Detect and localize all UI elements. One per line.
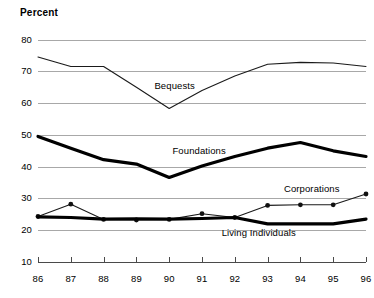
series-line-foundations [38, 136, 366, 177]
data-point-marker [364, 192, 369, 197]
x-tick-89 [136, 257, 137, 262]
series-line-living-individuals [38, 217, 366, 224]
series-line-bequests [38, 57, 366, 109]
x-tick-91 [202, 257, 203, 262]
x-tick-label-95: 95 [320, 273, 346, 284]
x-tick-label-88: 88 [91, 273, 117, 284]
series-label-living-individuals: Living Individuals [222, 227, 296, 238]
series-label-bequests: Bequests [154, 80, 194, 91]
x-tick-label-87: 87 [58, 273, 84, 284]
x-tick-92 [235, 257, 236, 262]
x-tick-label-93: 93 [255, 273, 281, 284]
x-tick-95 [333, 257, 334, 262]
data-point-marker [331, 202, 336, 207]
x-tick-label-91: 91 [189, 273, 215, 284]
x-tick-90 [169, 257, 170, 262]
series-label-corporations: Corporations [284, 183, 340, 194]
x-tick-label-92: 92 [222, 273, 248, 284]
data-point-marker [200, 211, 205, 216]
x-tick-88 [104, 257, 105, 262]
x-tick-label-90: 90 [156, 273, 182, 284]
data-point-marker [265, 203, 270, 208]
data-point-marker [298, 202, 303, 207]
x-tick-label-89: 89 [123, 273, 149, 284]
x-tick-label-96: 96 [353, 273, 374, 284]
x-tick-87 [71, 257, 72, 262]
x-tick-94 [300, 257, 301, 262]
x-tick-96 [366, 257, 367, 262]
x-tick-label-94: 94 [287, 273, 313, 284]
series-label-foundations: Foundations [172, 145, 225, 156]
x-tick-label-86: 86 [25, 273, 51, 284]
series-line-corporations [38, 194, 366, 220]
x-tick-93 [268, 257, 269, 262]
chart-container: Percent 1020304050607080 BequestsFoundat… [0, 0, 374, 298]
data-point-marker [68, 202, 73, 207]
x-tick-86 [38, 257, 39, 262]
x-axis-line [38, 262, 366, 263]
